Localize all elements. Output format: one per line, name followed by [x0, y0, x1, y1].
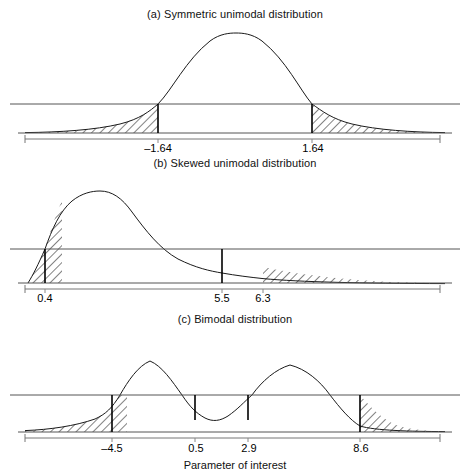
panel-a: (a) Symmetric unimodal distribution — [0, 0, 470, 155]
panel-c-tick-label-4: 8.6 — [353, 442, 368, 454]
panel-b-tick-label-mid: 5.5 — [214, 292, 229, 304]
panel-b-plot — [0, 171, 470, 299]
panel-a-plot — [0, 20, 470, 150]
panel-c: (c) Bimodal distribution — [0, 313, 470, 472]
panel-c-tick-label-1: –4.5 — [101, 442, 122, 454]
panel-c-plot — [0, 329, 470, 449]
panel-a-tick-label-upper: 1.64 — [302, 142, 323, 154]
panel-c-title: (c) Bimodal distribution — [0, 313, 470, 326]
panel-b-tick-label-upper: 6.3 — [255, 292, 270, 304]
panel-c-tick-label-3: 2.9 — [241, 442, 256, 454]
panel-a-density-curve — [25, 33, 445, 133]
panel-b-density-curve — [28, 191, 445, 284]
panel-b: (b) Skewed unimodal distribution — [0, 155, 470, 313]
panel-a-axis — [25, 135, 440, 143]
panel-a-svg — [0, 20, 470, 150]
panel-b-axis — [25, 285, 440, 293]
panel-c-right-tail-shading — [360, 395, 445, 432]
panel-c-svg — [0, 329, 470, 449]
panel-c-tick-label-2: 0.5 — [188, 442, 203, 454]
panel-b-svg — [0, 171, 470, 299]
statistical-figure: (a) Symmetric unimodal distribution — [0, 0, 470, 472]
panel-a-tick-label-lower: –1.64 — [144, 142, 172, 154]
x-axis-caption: Parameter of interest — [0, 459, 470, 472]
panel-c-axis — [25, 434, 440, 442]
panel-b-tick-label-lower: 0.4 — [37, 292, 52, 304]
panel-b-title: (b) Skewed unimodal distribution — [0, 157, 470, 170]
